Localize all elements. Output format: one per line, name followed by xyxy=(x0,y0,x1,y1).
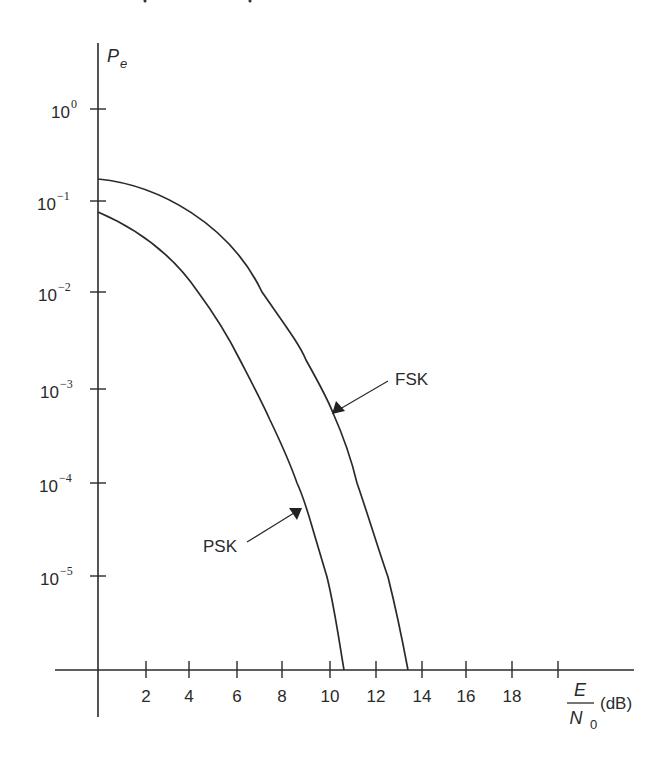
svg-text:12: 12 xyxy=(367,687,386,706)
fsk-annotation: FSK xyxy=(332,370,429,414)
cropped-text-fragments xyxy=(144,0,252,3)
svg-text:10: 10 xyxy=(39,477,58,496)
svg-text:8: 8 xyxy=(277,687,286,706)
x-tick-labels: 2 4 6 8 10 12 14 16 18 xyxy=(141,687,521,706)
svg-text:10: 10 xyxy=(40,383,59,402)
svg-text:10: 10 xyxy=(51,103,70,122)
svg-text:−2: −2 xyxy=(58,280,71,294)
fsk-curve xyxy=(98,179,408,670)
y-tick-label-0: 10 0 xyxy=(51,97,77,122)
psk-curve xyxy=(98,212,344,670)
svg-text:14: 14 xyxy=(413,687,432,706)
svg-text:0: 0 xyxy=(71,97,77,111)
svg-text:10: 10 xyxy=(40,570,59,589)
svg-text:4: 4 xyxy=(184,687,193,706)
svg-text:FSK: FSK xyxy=(395,370,429,389)
svg-text:6: 6 xyxy=(232,687,241,706)
svg-text:e: e xyxy=(120,56,127,71)
svg-text:10: 10 xyxy=(37,195,56,214)
svg-text:E: E xyxy=(574,680,587,700)
svg-text:(dB): (dB) xyxy=(600,694,632,713)
svg-text:18: 18 xyxy=(503,687,522,706)
y-tick-label-3: 10 −3 xyxy=(40,377,73,402)
x-axis-label: E N 0 (dB) xyxy=(567,680,632,732)
psk-annotation: PSK xyxy=(203,508,302,556)
y-tick-label-1: 10 −1 xyxy=(37,189,70,214)
chart-canvas: P e 10 0 10 −1 10 −2 10 −3 10 −4 xyxy=(0,0,663,773)
y-tick-label-4: 10 −4 xyxy=(39,471,72,496)
y-axis-label: P e xyxy=(107,46,127,71)
svg-text:−4: −4 xyxy=(59,471,72,485)
y-tick-label-2: 10 −2 xyxy=(38,280,71,305)
svg-text:−3: −3 xyxy=(60,377,73,391)
svg-text:PSK: PSK xyxy=(203,537,238,556)
svg-text:N: N xyxy=(570,708,584,728)
svg-text:P: P xyxy=(107,46,119,66)
svg-text:−5: −5 xyxy=(60,564,73,578)
svg-text:2: 2 xyxy=(141,687,150,706)
svg-text:16: 16 xyxy=(457,687,476,706)
svg-text:10: 10 xyxy=(38,286,57,305)
y-tick-labels: 10 0 10 −1 10 −2 10 −3 10 −4 10 −5 xyxy=(37,97,77,589)
svg-text:0: 0 xyxy=(590,717,597,732)
svg-text:−1: −1 xyxy=(57,189,70,203)
y-tick-label-5: 10 −5 xyxy=(40,564,73,589)
svg-text:10: 10 xyxy=(321,687,340,706)
arrowhead-icon xyxy=(289,508,302,520)
